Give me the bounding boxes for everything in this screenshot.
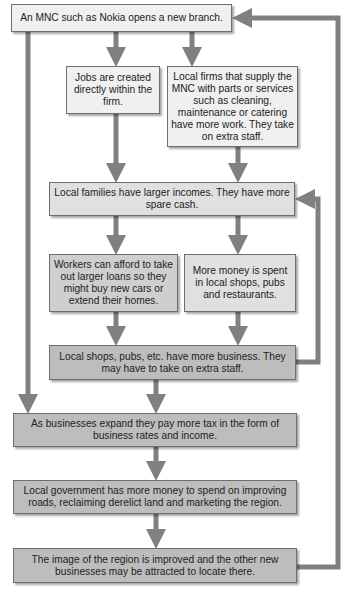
box-text: Local families have larger incomes. They… — [53, 187, 291, 211]
box-more-money-spent: More money is spent in local shops, pubs… — [184, 254, 296, 312]
box-local-families: Local families have larger incomes. They… — [49, 182, 295, 216]
box-workers-loans: Workers can afford to take out larger lo… — [49, 254, 178, 312]
box-local-government: Local government has more money to spend… — [13, 480, 297, 514]
box-text: As businesses expand they pay more tax i… — [17, 418, 293, 442]
box-tax: As businesses expand they pay more tax i… — [13, 413, 297, 447]
box-mnc-opens-branch: An MNC such as Nokia opens a new branch. — [11, 4, 232, 32]
box-text: The image of the region is improved and … — [17, 554, 293, 578]
box-text: An MNC such as Nokia opens a new branch. — [20, 12, 223, 24]
box-text: More money is spent in local shops, pubs… — [188, 265, 292, 301]
box-text: Local government has more money to spend… — [17, 485, 293, 509]
box-local-shops: Local shops, pubs, etc. have more busine… — [49, 345, 296, 380]
box-text: Workers can afford to take out larger lo… — [53, 259, 174, 307]
box-text: Jobs are created directly within the fir… — [70, 72, 156, 108]
box-jobs-created: Jobs are created directly within the fir… — [66, 66, 160, 114]
box-text: Local shops, pubs, etc. have more busine… — [53, 351, 292, 375]
box-local-firms: Local firms that supply the MNC with par… — [167, 66, 298, 147]
box-text: Local firms that supply the MNC with par… — [171, 71, 294, 143]
box-region-image: The image of the region is improved and … — [13, 548, 297, 583]
